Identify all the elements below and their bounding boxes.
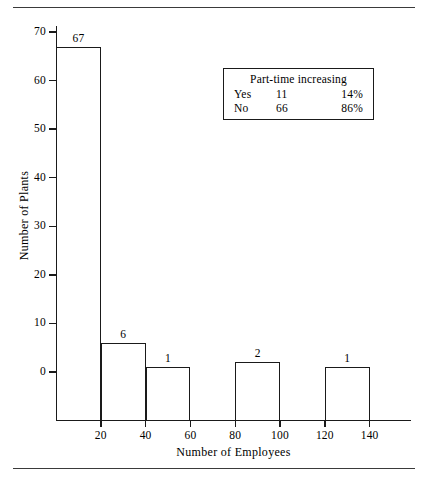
figure-page: 010203040506070 20406080100120140 676121…	[0, 0, 427, 480]
y-tick-label: 0	[14, 366, 46, 378]
x-tick-mark	[190, 420, 191, 427]
x-tick-label: 140	[350, 429, 390, 441]
annotation-table: Part-time increasing Yes1114%No6686%	[223, 68, 374, 120]
histogram-bar	[146, 367, 191, 420]
annotation-table-row: Yes1114%	[224, 87, 373, 101]
x-tick-label: 100	[260, 429, 300, 441]
y-tick-label: 50	[14, 123, 46, 135]
x-axis-title: Number of Employees	[56, 445, 411, 460]
x-axis-line	[56, 420, 411, 421]
annotation-row-percent: 14%	[328, 87, 373, 101]
annotation-row-count: 11	[276, 87, 328, 101]
x-tick-mark	[145, 420, 146, 427]
bar-value-label: 1	[325, 352, 370, 364]
annotation-table-row: No6686%	[224, 101, 373, 115]
bar-value-label: 67	[56, 32, 101, 44]
bar-value-label: 1	[146, 352, 191, 364]
bar-value-label: 2	[235, 347, 280, 359]
annotation-table-title: Part-time increasing	[224, 72, 373, 87]
x-tick-mark	[100, 420, 101, 427]
x-tick-mark	[279, 420, 280, 427]
histogram-bar	[235, 362, 280, 420]
x-tick-label: 60	[170, 429, 210, 441]
x-tick-label: 20	[81, 429, 121, 441]
x-tick-mark	[324, 420, 325, 427]
histogram-bar	[101, 343, 146, 420]
annotation-row-count: 66	[276, 101, 328, 115]
y-tick-label: 60	[14, 75, 46, 87]
x-tick-label: 80	[215, 429, 255, 441]
annotation-row-label: Yes	[224, 87, 276, 101]
x-tick-label: 120	[305, 429, 345, 441]
y-axis-title: Number of Plants	[17, 146, 32, 286]
x-tick-mark	[369, 420, 370, 427]
annotation-row-label: No	[224, 101, 276, 115]
bar-value-label: 6	[101, 328, 146, 340]
x-tick-label: 40	[126, 429, 166, 441]
x-tick-mark	[235, 420, 236, 427]
y-tick-label: 70	[14, 26, 46, 38]
annotation-row-percent: 86%	[328, 101, 373, 115]
y-tick-label: 10	[14, 317, 46, 329]
histogram-bar	[56, 47, 101, 420]
annotation-table-rows: Yes1114%No6686%	[224, 87, 373, 115]
histogram-bar	[325, 367, 370, 420]
